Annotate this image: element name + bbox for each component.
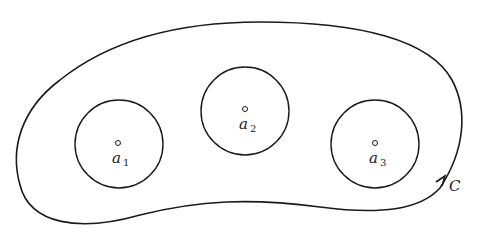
label-a2: a xyxy=(239,115,248,133)
label-a1-sub: 1 xyxy=(123,157,129,168)
circle-a1 xyxy=(75,100,163,188)
arrow-icon xyxy=(436,176,445,186)
point-a1-marker xyxy=(116,141,121,146)
point-a2-marker xyxy=(243,107,248,112)
contour-diagram: a 1 a 2 a 3 C xyxy=(0,0,487,235)
point-a3-marker xyxy=(373,141,378,146)
label-a3: a xyxy=(369,149,378,167)
circle-a3 xyxy=(331,100,419,188)
label-c: C xyxy=(449,177,461,195)
label-a3-sub: 3 xyxy=(380,157,386,168)
label-a2-sub: 2 xyxy=(250,123,256,134)
label-a1: a xyxy=(112,149,121,167)
